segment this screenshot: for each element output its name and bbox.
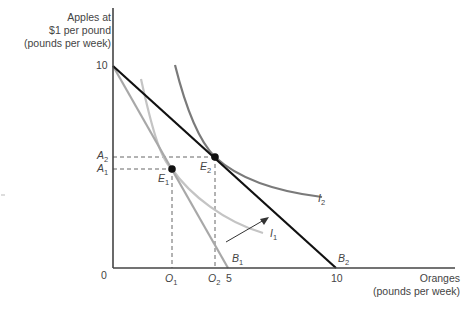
label-i2: I2 [318,192,325,206]
budget-line-b2 [113,66,336,268]
x-axis-label-line-1: Oranges [373,272,460,285]
label-b2: B2 [338,252,349,266]
x-axis-label-line-2: (pounds per week) [373,285,460,298]
y-axis-label-line-2: $1 per pound [24,24,111,37]
x-tick-10: 10 [331,272,343,285]
label-e2: E2 [200,160,211,174]
x-tick-o1: O1 [165,272,177,286]
label-e1: E1 [158,172,169,186]
origin-label: 0 [101,269,107,282]
point-e2 [211,153,219,161]
x-tick-5: 5 [226,272,232,285]
indifference-curve-i1 [141,79,263,233]
indifference-curve-i2 [175,65,322,197]
y-axis-label-line-3: (pounds per week) [24,37,111,50]
y-tick-a1: A1 [97,162,108,176]
y-axis-label-line-1: Apples at [24,11,111,24]
y-tick-10: 10 [96,59,108,72]
y-tick-a2: A2 [97,149,108,163]
x-axis-label: Oranges (pounds per week) [373,272,460,298]
point-e1 [168,165,176,173]
x-tick-o2: O2 [208,272,220,286]
label-i1: I1 [270,227,277,241]
y-axis-label: Apples at $1 per pound (pounds per week) [24,11,111,50]
arrow-head-icon [260,217,269,225]
label-b1: B1 [232,252,243,266]
